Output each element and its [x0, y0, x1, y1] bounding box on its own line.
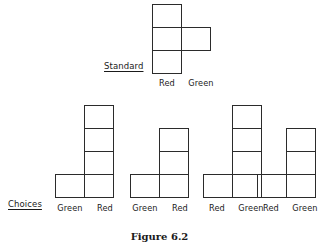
choice-1-cell-right-1	[84, 105, 114, 129]
standard-cell-left-top	[152, 4, 182, 28]
figure-caption: Figure 6.2	[0, 231, 319, 242]
choice-2-column-label-left: Green	[125, 203, 165, 213]
choice-4-column-label-left: Red	[255, 203, 287, 213]
choice-3-cell-right-1	[232, 105, 262, 129]
standard-cell-left-middle	[152, 27, 182, 51]
choice-1-cell-right-3	[84, 151, 114, 175]
choice-2-cell-left-foot	[130, 174, 160, 198]
choice-4-cell-left-foot	[257, 174, 287, 198]
standard-row-label: Standard	[104, 61, 143, 71]
choice-1-cell-right-4	[84, 174, 114, 198]
standard-cell-right-middle	[181, 27, 211, 51]
choice-4-cell-right-1	[286, 128, 316, 152]
standard-column-label-left: Red	[152, 78, 182, 88]
choice-2-cell-right-3	[159, 174, 189, 198]
choice-4-cell-right-3	[286, 174, 316, 198]
standard-cell-left-bottom	[152, 50, 182, 74]
choice-1-cell-left-foot	[55, 174, 85, 198]
choice-3-cell-left-foot	[203, 174, 233, 198]
standard-figure	[152, 4, 212, 74]
choice-1-column-label-left: Green	[50, 203, 90, 213]
choice-3-column-label-left: Red	[201, 203, 233, 213]
choices-row-label: Choices	[8, 199, 42, 209]
choice-2-column-label-right: Red	[164, 203, 196, 213]
choice-1-column-label-right: Red	[89, 203, 121, 213]
choice-1-cell-right-2	[84, 128, 114, 152]
standard-column-label-right: Green	[182, 78, 220, 88]
standard-row: Standard Red Green	[0, 0, 319, 96]
choice-4-column-label-right: Green	[285, 203, 320, 213]
choice-2-cell-right-2	[159, 151, 189, 175]
choice-2-cell-right-1	[159, 128, 189, 152]
choices-row: Choices Green Red Green Red Red	[0, 96, 319, 226]
choice-4-cell-right-2	[286, 151, 316, 175]
